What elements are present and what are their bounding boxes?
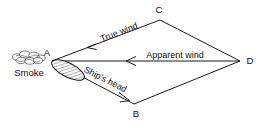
ships-hull — [49, 56, 87, 85]
vertex-label-d: D — [247, 55, 254, 66]
true-wind-label: True wind — [99, 21, 139, 44]
edge-b-d — [134, 61, 240, 104]
apparent-wind-label: Apparent wind — [146, 50, 204, 60]
smoke-icon — [13, 51, 46, 64]
wind-vector-diagram: A B C D True wind Apparent wind Ship's h… — [0, 0, 266, 130]
vertex-label-c: C — [156, 4, 163, 15]
smoke-label: Smoke — [14, 67, 44, 78]
vertex-label-b: B — [133, 108, 139, 119]
vertex-label-a: A — [44, 47, 51, 58]
true-wind-arrow — [87, 44, 97, 50]
diagram-canvas: A B C D True wind Apparent wind Ship's h… — [0, 0, 266, 130]
ships-head-label: Ship's head — [82, 64, 128, 94]
